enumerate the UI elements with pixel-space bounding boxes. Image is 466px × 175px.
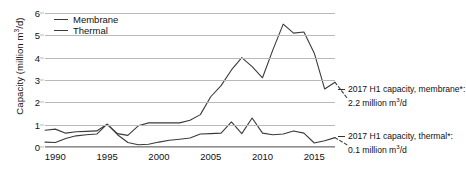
y-tick-mark — [40, 102, 44, 103]
y-tick-label: 0 — [35, 142, 40, 153]
annotation-thermal-capacity: 2017 H1 capacity, thermal*: 0.1 million … — [338, 131, 453, 155]
annotation-membrane-line2-suffix: /d — [400, 97, 407, 107]
chart-container: Capacity (million m3/d) 0123456199019952… — [0, 0, 466, 175]
legend-item-thermal: Thermal — [54, 25, 118, 36]
x-tick-label: 2010 — [252, 151, 273, 162]
y-tick-label: 4 — [35, 52, 40, 63]
grid-line — [45, 80, 335, 81]
grid-line — [45, 147, 335, 148]
leader-dash-icon-thermal — [338, 136, 345, 137]
x-tick-label: 1990 — [45, 151, 66, 162]
annotation-thermal-line2-prefix: 0.1 million m — [348, 144, 396, 154]
annotation-membrane-capacity: 2017 H1 capacity, membrane*: 2.2 million… — [338, 84, 465, 108]
y-axis-title: Capacity (million m3/d) — [13, 1, 25, 131]
y-tick-mark — [40, 35, 44, 36]
y-tick-mark — [40, 147, 44, 148]
grid-line — [45, 102, 335, 103]
y-axis-title-prefix: Capacity (million m — [14, 33, 25, 115]
x-tick-label: 2005 — [200, 151, 221, 162]
x-tick-label: 1995 — [97, 151, 118, 162]
y-tick-mark — [40, 13, 44, 14]
annotation-thermal-text: 2017 H1 capacity, thermal*: 0.1 million … — [348, 131, 453, 155]
y-tick-label: 2 — [35, 97, 40, 108]
y-tick-label: 5 — [35, 30, 40, 41]
annotation-membrane-text: 2017 H1 capacity, membrane*: 2.2 million… — [348, 84, 465, 108]
annotation-membrane-line1: 2017 H1 capacity, membrane*: — [348, 84, 465, 94]
y-tick-label: 3 — [35, 75, 40, 86]
y-axis-title-exponent: 3 — [13, 29, 20, 33]
y-axis-title-suffix: /d) — [14, 17, 25, 28]
grid-line — [45, 58, 335, 59]
y-tick-mark — [40, 124, 44, 125]
legend-line-icon-membrane — [54, 19, 68, 20]
y-tick-label: 1 — [35, 119, 40, 130]
y-tick-mark — [40, 57, 44, 58]
leader-dash-icon-membrane — [338, 89, 345, 90]
y-tick-mark — [40, 80, 44, 81]
legend: Membrane Thermal — [54, 14, 118, 36]
x-tick-label: 2015 — [304, 151, 325, 162]
annotation-membrane-line2-prefix: 2.2 million m — [348, 97, 396, 107]
legend-item-membrane: Membrane — [54, 14, 118, 25]
legend-label-membrane: Membrane — [73, 14, 118, 25]
y-tick-label: 6 — [35, 8, 40, 19]
legend-line-icon-thermal — [54, 30, 68, 31]
x-axis-line — [45, 146, 335, 147]
annotation-thermal-line1: 2017 H1 capacity, thermal*: — [348, 131, 453, 141]
x-tick-label: 2000 — [148, 151, 169, 162]
legend-label-thermal: Thermal — [73, 25, 108, 36]
grid-line — [45, 125, 335, 126]
annotation-thermal-line2-suffix: /d — [400, 144, 407, 154]
